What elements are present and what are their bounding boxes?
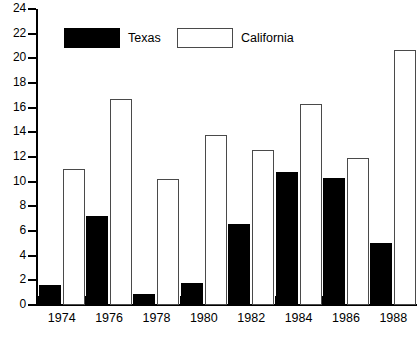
y-axis-tick [28,33,36,35]
bar-california-1986 [347,158,369,305]
y-axis-tick-label: 14 [2,125,26,137]
bar-california-1988 [394,50,416,305]
y-axis-tick-label: 0 [2,298,26,310]
bar-texas-1978 [133,294,155,305]
y-axis-tick-label: 2 [2,273,26,285]
y-axis-tick-label: 6 [2,224,26,236]
x-axis-tick-label: 1986 [323,311,369,325]
legend-swatch-california [177,28,233,48]
y-axis-tick-label-wrap: 16 [0,101,26,113]
x-axis-tick-label: 1978 [133,311,179,325]
y-axis-tick [28,131,36,133]
y-axis-tick-label-wrap: 24 [0,2,26,14]
legend-swatch-texas [64,28,120,48]
x-axis-tick-label: 1976 [86,311,132,325]
y-axis-tick-label: 12 [2,150,26,162]
bar-california-1974 [63,169,85,305]
y-axis-tick [28,230,36,232]
y-axis-tick-label: 16 [2,101,26,113]
y-axis-tick-label-wrap: 10 [0,175,26,187]
y-axis-tick [28,57,36,59]
y-axis-tick-label-wrap: 20 [0,51,26,63]
y-axis-tick-label-wrap: 14 [0,125,26,137]
bar-chart: Texas California 024681012141618202224 1… [0,0,419,346]
y-axis-tick [28,304,36,306]
y-axis-tick [28,107,36,109]
y-axis-tick-label: 18 [2,76,26,88]
bar-california-1976 [110,99,132,305]
x-axis-tick-label: 1984 [276,311,322,325]
y-axis-tick-label: 22 [2,27,26,39]
x-axis-tick-label: 1982 [228,311,274,325]
bar-california-1978 [157,179,179,305]
y-axis-tick [28,156,36,158]
x-axis-tick-label: 1988 [370,311,416,325]
bar-texas-1988 [370,243,392,305]
y-axis-tick-label-wrap: 0 [0,298,26,310]
bar-texas-1984 [276,172,298,305]
y-axis-tick-label-wrap: 4 [0,249,26,261]
y-axis-tick [28,8,36,10]
bar-california-1980 [205,135,227,305]
y-axis-tick-label-wrap: 2 [0,273,26,285]
y-axis-tick [28,205,36,207]
bar-texas-1976 [86,216,108,305]
bar-texas-1986 [323,178,345,305]
y-axis-tick-label: 4 [2,249,26,261]
x-axis-tick-label: 1974 [39,311,85,325]
bar-texas-1982 [228,224,250,305]
bar-texas-1980 [181,283,203,305]
x-axis-tick-label: 1980 [181,311,227,325]
y-axis-tick-label-wrap: 22 [0,27,26,39]
y-axis-tick [28,82,36,84]
y-axis-tick [28,255,36,257]
y-axis-tick-label: 20 [2,51,26,63]
bar-california-1982 [252,150,274,305]
legend-label-california: California [241,31,294,45]
y-axis-tick-label-wrap: 8 [0,199,26,211]
y-axis-tick-label: 10 [2,175,26,187]
y-axis-line [36,9,38,306]
y-axis-tick-label-wrap: 18 [0,76,26,88]
bar-texas-1974 [39,285,61,305]
y-axis-tick-label-wrap: 12 [0,150,26,162]
y-axis-tick [28,279,36,281]
bar-california-1984 [300,104,322,305]
y-axis-tick [28,181,36,183]
y-axis-tick-label-wrap: 6 [0,224,26,236]
y-axis-tick-label: 24 [2,2,26,14]
y-axis-tick-label: 8 [2,199,26,211]
chart-legend: Texas California [0,0,419,60]
legend-label-texas: Texas [128,31,161,45]
